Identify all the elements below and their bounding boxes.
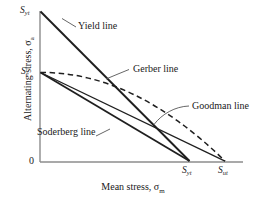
goodman-line-curve <box>41 73 226 162</box>
fatigue-failure-criteria-diagram: Syt Se 0 Syt Sut Yield line Gerber line … <box>0 0 259 200</box>
goodman-line-leader <box>154 106 189 125</box>
gerber-line-leader <box>106 70 129 80</box>
yield-line-leader <box>62 19 76 28</box>
gerber-line-label: Gerber line <box>133 64 178 74</box>
soderberg-line-leader <box>96 129 110 136</box>
y-axis-title: Alternating stress, σa <box>23 5 33 153</box>
x-axis-title: Mean stress, σm <box>48 182 218 192</box>
S-ut-x-label: Sut <box>218 166 228 176</box>
origin-label: 0 <box>29 156 34 166</box>
S-yt-x-label: Syt <box>182 166 191 176</box>
soderberg-line-label: Soderberg line <box>37 127 95 137</box>
goodman-line-label: Goodman line <box>192 101 249 111</box>
yield-line-label: Yield line <box>78 21 117 31</box>
